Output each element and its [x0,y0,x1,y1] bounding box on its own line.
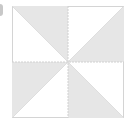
edge-tab [0,4,3,16]
pinwheel-diagram [12,6,124,118]
pinwheel-svg [12,6,124,118]
